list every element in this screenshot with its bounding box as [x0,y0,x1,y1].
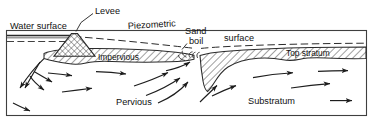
levee-seepage-diagram: Water surface Levee Piezometric surface … [0,0,373,124]
label-pervious: Pervious [116,97,152,107]
label-impervious: Impervious [98,52,139,62]
label-top-stratum: Top stratum [286,48,330,58]
label-substratum: Substratum [248,96,295,106]
label-piezometric: Piezometric [128,18,177,31]
figure-container: Water surface Levee Piezometric surface … [0,0,373,124]
label-sand: Sand [185,26,206,36]
label-boil: boil [189,36,203,46]
levee-leader [76,14,93,32]
label-water-surface: Water surface [10,21,67,31]
label-surface: surface [224,33,254,43]
label-levee: Levee [95,6,120,16]
diagram-frame [7,31,367,116]
